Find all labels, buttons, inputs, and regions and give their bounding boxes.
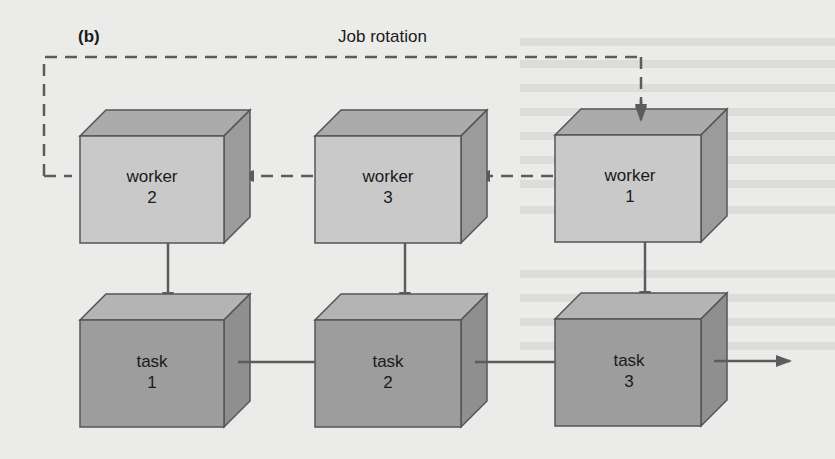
task-3-label: task	[613, 351, 645, 370]
worker-1-number: 1	[625, 187, 634, 206]
task-1-label: task	[136, 352, 168, 371]
worker-3-number: 3	[383, 188, 392, 207]
job-rotation-diagram: (b) Job rotation worker 2 worker 3 worke…	[0, 0, 835, 459]
task-box-2: task 2	[315, 294, 487, 427]
task-3-top-face	[555, 293, 727, 319]
worker-box-2: worker 2	[80, 110, 250, 243]
task-1-top-face	[80, 294, 250, 320]
worker-box-1: worker 1	[555, 109, 727, 242]
worker-2-label: worker	[125, 167, 177, 186]
worker-3-label: worker	[361, 167, 413, 186]
task-2-top-face	[315, 294, 487, 320]
diagram-title: Job rotation	[338, 27, 427, 46]
worker-2-number: 2	[147, 188, 156, 207]
task-2-number: 2	[383, 373, 392, 392]
task-box-3: task 3	[555, 293, 727, 426]
worker-box-3: worker 3	[315, 110, 487, 243]
worker-1-label: worker	[603, 166, 655, 185]
worker-2-top-face	[80, 110, 250, 136]
task-1-number: 1	[147, 373, 156, 392]
task-box-1: task 1	[80, 294, 250, 427]
worker-3-top-face	[315, 110, 487, 136]
task-2-label: task	[372, 352, 404, 371]
task-3-number: 3	[624, 372, 633, 391]
panel-label: (b)	[78, 27, 100, 46]
